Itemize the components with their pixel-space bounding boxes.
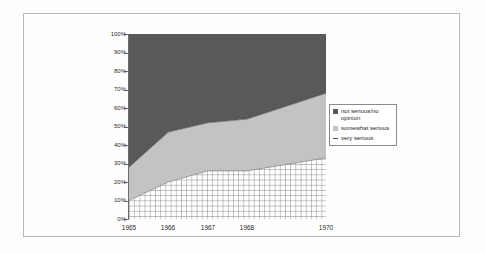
page-frame: 100% 90% 80% 70% 60% 50% 40% 30% 20% 10%… [23, 13, 460, 237]
legend-item-very-serious: very serious [333, 135, 393, 142]
x-axis-label-1968: 1968 [227, 224, 267, 231]
stacked-area-chart: 100% 90% 80% 70% 60% 50% 40% 30% 20% 10%… [24, 14, 461, 238]
legend-swatch-dark-square-icon [333, 109, 338, 114]
legend-label-not-serious: not serious/no opinion [341, 108, 393, 122]
legend-item-not-serious: not serious/no opinion [333, 108, 393, 122]
x-axis-label-1966: 1966 [148, 224, 188, 231]
x-axis-label-1965: 1965 [109, 224, 149, 231]
legend-item-somewhat-serious: somewhat serious [333, 125, 393, 132]
legend-swatch-hatch-icon [333, 136, 338, 141]
legend-swatch-gray-square-icon [333, 126, 338, 131]
x-axis-label-1967: 1967 [188, 224, 228, 231]
scanned-page: 100% 90% 80% 70% 60% 50% 40% 30% 20% 10%… [0, 0, 485, 253]
legend-label-somewhat-serious: somewhat serious [341, 125, 393, 132]
x-axis-label-1970: 1970 [306, 224, 346, 231]
chart-legend: not serious/no opinion somewhat serious … [329, 104, 397, 146]
legend-label-very-serious: very serious [341, 135, 393, 142]
